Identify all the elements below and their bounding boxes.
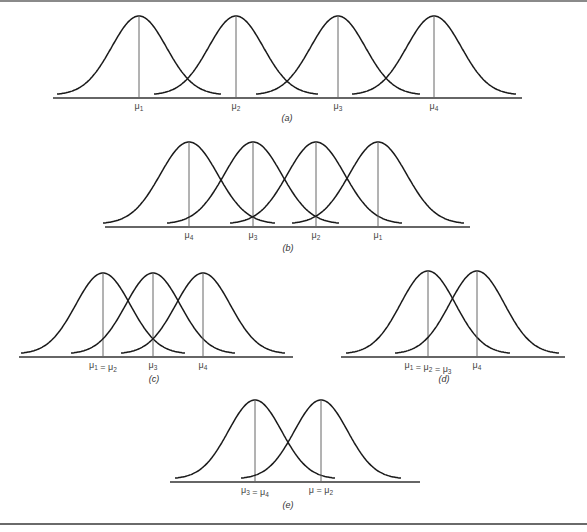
mean-label: μ4 (430, 101, 439, 112)
mean-label: μ3 = μ4 (241, 485, 269, 498)
panel-d: μ1 = μ2 = μ3μ4 (341, 271, 565, 375)
mean-label: μ1 (374, 230, 383, 241)
caption-c: (c) (149, 374, 160, 384)
mean-label: μ3 (249, 230, 258, 241)
mean-label: μ1 (135, 101, 144, 112)
mean-label: μ4 (473, 360, 482, 371)
caption-a: (a) (282, 113, 293, 123)
caption-d: (d) (439, 374, 450, 384)
figure: μ1μ2μ3μ4 μ4μ3μ2μ1 μ1 = μ2μ3μ4 μ1 = μ2 = … (0, 0, 587, 532)
caption-e: (e) (283, 500, 294, 510)
caption-b: (b) (283, 243, 294, 253)
mean-label: μ3 (149, 360, 158, 371)
mean-label: μ4 (199, 360, 208, 371)
panel-a: μ1μ2μ3μ4 (53, 16, 522, 112)
mean-label: μ3 (334, 101, 343, 112)
mean-label: μ4 (185, 230, 194, 241)
mean-label: μ2 (232, 101, 241, 112)
mean-label: μ = μ2 (309, 485, 334, 496)
bottom-border (0, 523, 587, 525)
panel-e: μ3 = μ4μ = μ2 (170, 400, 420, 498)
mean-label: μ1 = μ2 = μ3 (405, 360, 452, 375)
mean-label: μ2 (312, 230, 321, 241)
panel-b: μ4μ3μ2μ1 (103, 142, 470, 241)
mean-label: μ1 = μ2 (89, 360, 117, 373)
panel-c: μ1 = μ2μ3μ4 (19, 273, 293, 373)
